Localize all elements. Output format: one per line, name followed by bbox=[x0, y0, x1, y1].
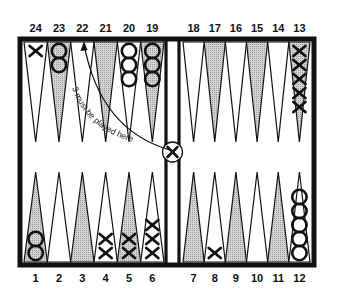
point-label-8: 8 bbox=[212, 272, 218, 284]
point-15 bbox=[247, 42, 268, 142]
point-label-7: 7 bbox=[191, 272, 197, 284]
backgammon-board: 131415161718192021222324 123456789101112… bbox=[0, 0, 338, 291]
point-label-16: 16 bbox=[230, 22, 242, 34]
point-label-9: 9 bbox=[233, 272, 239, 284]
point-label-21: 21 bbox=[100, 22, 112, 34]
point-label-5: 5 bbox=[126, 272, 132, 284]
point-label-14: 14 bbox=[272, 22, 285, 34]
point-14 bbox=[268, 42, 289, 142]
point-9 bbox=[225, 172, 246, 262]
point-24 bbox=[24, 42, 47, 142]
point-label-3: 3 bbox=[79, 272, 85, 284]
point-label-20: 20 bbox=[123, 22, 135, 34]
point-label-1: 1 bbox=[33, 272, 39, 284]
point-label-2: 2 bbox=[56, 272, 62, 284]
point-label-11: 11 bbox=[272, 272, 284, 284]
point-8 bbox=[204, 172, 225, 262]
point-11 bbox=[268, 172, 289, 262]
point-17 bbox=[204, 42, 225, 142]
point-7 bbox=[183, 172, 204, 262]
point-label-23: 23 bbox=[53, 22, 65, 34]
point-label-4: 4 bbox=[103, 272, 110, 284]
point-label-18: 18 bbox=[187, 22, 199, 34]
point-4 bbox=[94, 172, 117, 262]
point-18 bbox=[183, 42, 204, 142]
point-5 bbox=[117, 172, 140, 262]
point-label-19: 19 bbox=[146, 22, 158, 34]
point-2 bbox=[47, 172, 70, 262]
point-label-22: 22 bbox=[76, 22, 88, 34]
point-3 bbox=[71, 172, 94, 262]
point-10 bbox=[247, 172, 268, 262]
bar-checker-x bbox=[163, 142, 183, 162]
point-label-10: 10 bbox=[251, 272, 263, 284]
point-16 bbox=[225, 42, 246, 142]
point-label-24: 24 bbox=[30, 22, 43, 34]
point-label-6: 6 bbox=[149, 272, 155, 284]
point-6 bbox=[141, 172, 164, 262]
point-label-12: 12 bbox=[293, 272, 305, 284]
point-label-13: 13 bbox=[293, 22, 305, 34]
point-label-15: 15 bbox=[251, 22, 263, 34]
point-label-17: 17 bbox=[209, 22, 221, 34]
point-1 bbox=[24, 172, 47, 262]
